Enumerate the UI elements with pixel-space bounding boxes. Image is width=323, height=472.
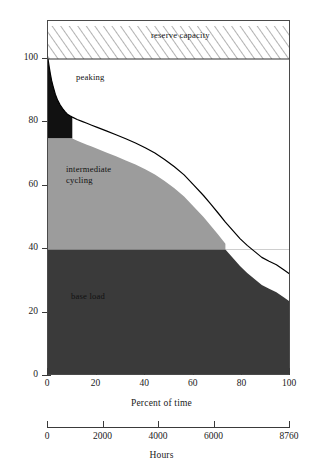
x-tick-label-60: 60 <box>173 379 213 389</box>
label-reserve-capacity: reserve capacity <box>151 30 210 41</box>
hours-tick-mark-2000 <box>103 421 104 427</box>
y-tick-label-100: 100 <box>14 53 38 63</box>
y-tick-label-20: 20 <box>14 307 38 317</box>
hours-tick-label-8760: 8760 <box>264 432 314 442</box>
label-peaking: peaking <box>76 72 105 83</box>
x-tick-label-40: 40 <box>124 379 164 389</box>
x-tick-mark-40 <box>144 368 145 375</box>
y-tick-label-40: 40 <box>14 243 38 253</box>
x-tick-mark-0 <box>47 368 48 375</box>
hours-tick-label-6000: 6000 <box>189 432 239 442</box>
hours-tick-mark-4000 <box>158 421 159 427</box>
y-tick-label-60: 60 <box>14 180 38 190</box>
load-duration-curve-figure: Per cent of peak power 100 80 60 40 20 0 <box>0 0 323 472</box>
x-tick-label-100: 100 <box>269 379 309 389</box>
x-tick-label-80: 80 <box>221 379 261 389</box>
x-tick-label-20: 20 <box>76 379 116 389</box>
hours-tick-label-0: 0 <box>22 432 72 442</box>
hours-tick-mark-0 <box>47 421 48 427</box>
x-tick-label-0: 0 <box>27 379 67 389</box>
x-axis-title: Percent of time <box>0 398 323 408</box>
y-tick-mark-0 <box>42 375 51 376</box>
hours-tick-mark-8760 <box>289 421 290 427</box>
x-tick-mark-100 <box>289 368 290 375</box>
plot-area: reserve capacity peaking intermediate cy… <box>47 20 290 375</box>
peaking-region <box>48 59 72 139</box>
hours-axis-title: Hours <box>0 450 323 460</box>
hours-tick-label-2000: 2000 <box>78 432 128 442</box>
y-tick-label-80: 80 <box>14 116 38 126</box>
label-base-load: base load <box>71 291 105 302</box>
x-tick-mark-20 <box>96 368 97 375</box>
hours-tick-label-4000: 4000 <box>133 432 183 442</box>
hours-axis-line <box>47 427 290 428</box>
intermediate-cycling-region <box>48 139 225 250</box>
x-tick-mark-80 <box>241 368 242 375</box>
hours-tick-mark-6000 <box>214 421 215 427</box>
x-tick-mark-60 <box>193 368 194 375</box>
label-intermediate-cycling: intermediate cycling <box>66 164 111 185</box>
